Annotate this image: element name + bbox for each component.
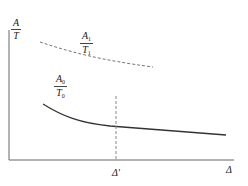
- diagram-canvas: [0, 0, 248, 186]
- lower-label-den-sub: 0: [62, 93, 65, 99]
- x-axis-label: Δ: [226, 165, 232, 175]
- dashed-curve-a1-t1: [40, 42, 153, 67]
- upper-label-den-sub: 1: [88, 50, 91, 56]
- lower-curve-label: A0 T0: [54, 74, 67, 99]
- solid-curve-a0-t0: [43, 104, 226, 135]
- y-axis-label-den: T: [11, 31, 21, 41]
- delta-prime-label: Δ': [112, 168, 120, 178]
- y-axis-label: A T: [11, 18, 21, 41]
- lower-label-num-sub: 0: [62, 79, 65, 85]
- y-axis-label-num: A: [11, 18, 21, 28]
- upper-label-num-sub: 1: [88, 36, 91, 42]
- upper-curve-label: A1 T1: [80, 31, 93, 56]
